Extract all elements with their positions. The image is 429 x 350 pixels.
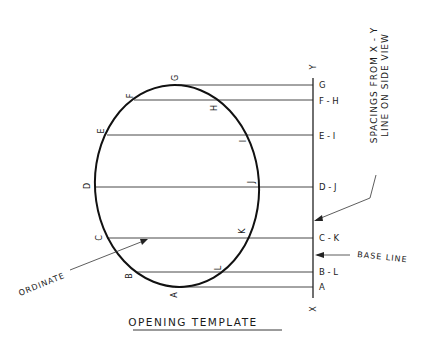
base-line-arrowhead-icon <box>315 252 324 258</box>
point-label-j: J <box>247 181 256 184</box>
row-label-b-l: B - L <box>319 267 338 277</box>
x-axis-label: X <box>309 306 318 312</box>
point-label-b: B <box>125 273 134 279</box>
spacings-arrowhead-icon <box>314 215 323 221</box>
y-axis-label: Y <box>309 64 318 70</box>
row-labels: G F - H E - I D - J C - K B - L A <box>319 80 339 292</box>
row-label-c-k: C - K <box>319 233 339 243</box>
point-label-c: C <box>95 235 104 241</box>
row-label-a: A <box>319 282 325 292</box>
point-label-a: A <box>170 292 179 298</box>
spacings-text-line2: LINE ON SIDE VIEW <box>380 33 390 137</box>
point-label-e: E <box>97 128 106 133</box>
base-line-annotation: BASE LINE <box>315 250 408 264</box>
point-label-g: G <box>171 75 180 81</box>
row-label-e-i: E - I <box>319 131 335 141</box>
ordinate-lines <box>95 85 313 287</box>
diagram-title: OPENING TEMPLATE <box>128 316 257 328</box>
opening-ellipse <box>88 80 266 293</box>
point-label-d: D <box>83 183 92 189</box>
row-label-d-j: D - J <box>319 182 337 192</box>
row-label-g: G <box>319 80 326 90</box>
spacings-text-line1: SPACINGS FROM X - Y <box>369 27 379 144</box>
point-label-l: L <box>214 265 223 270</box>
opening-template-diagram: Y X G F - H E - I D - J C - K B - L A G … <box>0 0 429 350</box>
point-label-i: I <box>239 140 248 142</box>
ordinate-arrowhead-icon <box>140 239 148 245</box>
point-label-k: K <box>238 228 247 234</box>
point-label-f: F <box>126 93 135 98</box>
point-label-h: H <box>210 105 219 111</box>
row-label-f-h: F - H <box>319 96 339 106</box>
base-line-label: BASE LINE <box>357 250 408 264</box>
ordinate-annotation: ORDINATE <box>17 239 148 298</box>
ordinate-leader <box>70 240 146 270</box>
ordinate-label: ORDINATE <box>17 271 66 298</box>
